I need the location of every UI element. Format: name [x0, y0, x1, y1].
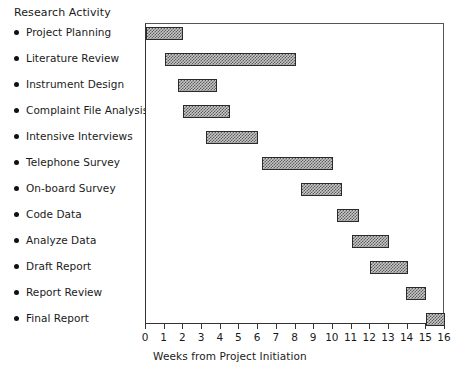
x-tick-mark	[276, 324, 277, 329]
bullet-icon	[14, 290, 19, 295]
activity-label: On-board Survey	[26, 182, 116, 194]
x-tick-label: 12	[359, 331, 379, 343]
x-tick-label: 16	[434, 331, 454, 343]
gantt-bar	[262, 157, 333, 170]
activity-row: Report Review	[14, 284, 102, 300]
x-tick-label: 0	[135, 331, 155, 343]
bullet-icon	[14, 56, 19, 61]
legend-title: Research Activity	[14, 6, 111, 19]
x-tick-mark	[369, 324, 370, 329]
bullet-icon	[14, 212, 19, 217]
gantt-bar	[406, 287, 427, 300]
x-tick-mark	[182, 324, 183, 329]
bullet-icon	[14, 30, 19, 35]
activity-row: Code Data	[14, 206, 82, 222]
bullet-icon	[14, 134, 19, 139]
x-tick-label: 2	[172, 331, 192, 343]
x-axis-title: Weeks from Project Initiation	[0, 350, 460, 362]
x-tick-label: 9	[303, 331, 323, 343]
activity-label: Telephone Survey	[26, 156, 120, 168]
gantt-bar	[206, 131, 258, 144]
activity-row: Telephone Survey	[14, 154, 120, 170]
gantt-bar	[178, 79, 217, 92]
activity-row: Complaint File Analysis	[14, 102, 148, 118]
x-tick-mark	[425, 324, 426, 329]
activity-label: Complaint File Analysis	[26, 104, 148, 116]
gantt-bar	[352, 235, 389, 248]
plot-area	[145, 23, 444, 324]
x-tick-label: 4	[210, 331, 230, 343]
x-tick-mark	[145, 324, 146, 329]
x-tick-label: 3	[191, 331, 211, 343]
x-tick-label: 7	[266, 331, 286, 343]
activity-label: Final Report	[26, 312, 89, 324]
activity-label: Instrument Design	[26, 78, 124, 90]
gantt-bar	[146, 27, 183, 40]
x-tick-mark	[332, 324, 333, 329]
activity-label: Analyze Data	[26, 234, 96, 246]
bullet-icon	[14, 186, 19, 191]
activity-label: Draft Report	[26, 260, 91, 272]
x-tick-label: 14	[397, 331, 417, 343]
x-tick-label: 8	[285, 331, 305, 343]
activity-row: Intensive Interviews	[14, 128, 133, 144]
activity-label: Literature Review	[26, 52, 119, 64]
x-tick-mark	[257, 324, 258, 329]
x-tick-label: 15	[415, 331, 435, 343]
gantt-bar	[183, 105, 230, 118]
x-tick-mark	[444, 324, 445, 329]
x-tick-mark	[388, 324, 389, 329]
bullet-icon	[14, 316, 19, 321]
x-tick-mark	[164, 324, 165, 329]
activity-label: Intensive Interviews	[26, 130, 133, 142]
activity-row: Literature Review	[14, 50, 119, 66]
gantt-bar	[337, 209, 359, 222]
x-tick-mark	[295, 324, 296, 329]
gantt-bar	[301, 183, 342, 196]
x-tick-mark	[313, 324, 314, 329]
activity-row: Instrument Design	[14, 76, 124, 92]
x-tick-mark	[351, 324, 352, 329]
activity-row: Analyze Data	[14, 232, 96, 248]
bullet-icon	[14, 82, 19, 87]
bullet-icon	[14, 264, 19, 269]
x-tick-label: 1	[154, 331, 174, 343]
x-tick-mark	[201, 324, 202, 329]
gantt-bar	[370, 261, 407, 274]
activity-label: Code Data	[26, 208, 82, 220]
bullet-icon	[14, 108, 19, 113]
gantt-chart: Research Activity Project PlanningLitera…	[0, 0, 460, 374]
bullet-icon	[14, 160, 19, 165]
x-tick-label: 13	[378, 331, 398, 343]
activity-row: Draft Report	[14, 258, 91, 274]
bullet-icon	[14, 238, 19, 243]
x-tick-label: 10	[322, 331, 342, 343]
activity-row: On-board Survey	[14, 180, 116, 196]
x-tick-label: 5	[228, 331, 248, 343]
x-tick-label: 6	[247, 331, 267, 343]
activity-label: Project Planning	[26, 26, 111, 38]
x-tick-label: 11	[341, 331, 361, 343]
x-tick-mark	[238, 324, 239, 329]
activity-row: Project Planning	[14, 24, 111, 40]
x-tick-mark	[407, 324, 408, 329]
gantt-bar	[426, 313, 445, 326]
gantt-bar	[165, 53, 296, 66]
activity-label: Report Review	[26, 286, 102, 298]
activity-row: Final Report	[14, 310, 89, 326]
x-tick-mark	[220, 324, 221, 329]
